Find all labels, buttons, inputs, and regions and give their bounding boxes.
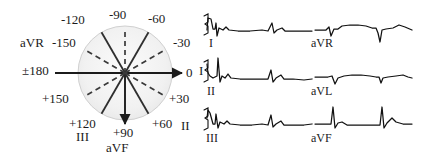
degree-label-minus-90: -90 [109,8,126,21]
degree-label-plus-60: +60 [152,117,172,130]
ecg-trace-lead-III [207,110,312,128]
wheel-lead-label-III: III [76,130,89,143]
degree-label-plus-150: +150 [42,92,69,105]
degree-label-plus-90: +90 [113,126,133,139]
degree-label-minus-60: -60 [148,12,165,25]
degree-label-plus-minus-180: ±180 [22,64,49,77]
wheel-lead-label-aVR: aVR [20,36,44,49]
degree-label-minus-120: -120 [61,13,85,26]
wheel-lead-label-II: II [181,119,190,132]
ecg-trace-lead-aVF [315,107,412,128]
ecg-axis-figure: -90 -60 -30 0 +30 +60 +90 +120 +150 ±180… [0,0,443,159]
degree-label-minus-150: -150 [52,36,76,49]
ecg-trace-lead-I [207,18,312,36]
degree-label-zero: 0 [186,66,193,79]
ecg-label-lead-I: I [209,37,213,49]
degree-label-minus-30: -30 [173,36,190,49]
ecg-label-lead-aVR: aVR [311,37,333,49]
ecg-label-lead-II: II [207,85,215,97]
ecg-trace-lead-II [207,58,312,82]
ecg-trace-lead-aVL [315,75,412,84]
wheel-lead-label-aVF: aVF [106,141,128,154]
ecg-label-lead-aVL: aVL [311,85,332,97]
degree-label-plus-30: +30 [169,92,189,105]
ecg-label-lead-III: III [206,132,218,144]
ecg-label-lead-aVF: aVF [311,132,332,144]
row-bracket-2 [204,60,208,82]
